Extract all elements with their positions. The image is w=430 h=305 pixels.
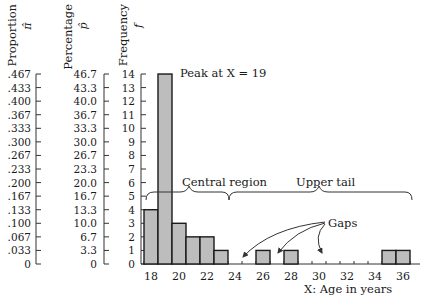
- bar-age-36: [396, 250, 410, 264]
- y-axis-proportion: .467.433.400.367.333.300.267.233.200.167…: [5, 3, 41, 270]
- y-tick-label: 10: [122, 122, 135, 134]
- y-tick-label: 43.3: [74, 82, 97, 94]
- y-tick-label: .433: [8, 82, 31, 94]
- bar-age-26: [256, 250, 270, 264]
- y-tick-label: 3: [128, 217, 135, 229]
- x-tick-label: 20: [172, 270, 186, 283]
- y-axis-frequency: 14131211109876543210Frequencyf: [116, 4, 146, 271]
- y-tick-label: 26.7: [74, 149, 97, 161]
- y-tick-label: 9: [128, 136, 135, 148]
- y-tick-label: .200: [8, 177, 31, 189]
- x-axis: 18202224262830323436X: Age in years: [141, 261, 420, 296]
- y-tick-label: 30.0: [74, 136, 97, 148]
- y-axis-title: Frequency: [116, 4, 130, 67]
- y-tick-label: .067: [8, 231, 31, 243]
- y-tick-label: 40.0: [74, 95, 97, 107]
- y-tick-label: 1: [128, 244, 135, 256]
- x-tick-label: 28: [284, 270, 298, 283]
- y-tick-label: 0: [24, 258, 31, 270]
- gap-arrow-30: [318, 224, 325, 253]
- bar-age-35: [382, 250, 396, 264]
- y-tick-label: 0: [128, 258, 135, 270]
- y-tick-label: 46.7: [74, 68, 97, 80]
- bar-age-18: [144, 210, 158, 264]
- y-tick-label: .133: [8, 204, 31, 216]
- bar-age-19: [158, 74, 172, 264]
- x-axis-title: X: Age in years: [304, 282, 392, 296]
- x-tick-label: 22: [200, 270, 214, 283]
- gaps-label: Gaps: [328, 216, 357, 230]
- y-axis-symbol: p̂: [77, 22, 90, 29]
- y-tick-label: 33.3: [74, 122, 97, 134]
- y-tick-label: 13: [122, 82, 135, 94]
- x-tick-label: 36: [396, 270, 410, 283]
- y-tick-label: 13.3: [74, 204, 97, 216]
- y-tick-label: .267: [8, 149, 31, 161]
- y-tick-label: .300: [8, 136, 31, 148]
- y-tick-label: .033: [8, 244, 31, 256]
- y-tick-label: 16.7: [74, 190, 97, 202]
- y-tick-label: .367: [8, 109, 31, 121]
- y-tick-label: .467: [8, 68, 31, 80]
- y-tick-label: 10.0: [74, 217, 97, 229]
- y-axis-title: Proportion: [5, 3, 19, 66]
- y-tick-label: 7: [128, 163, 135, 175]
- y-tick-label: .100: [8, 217, 31, 229]
- y-tick-label: 36.7: [74, 109, 97, 121]
- y-tick-label: 8: [128, 149, 135, 161]
- y-tick-label: 4: [128, 204, 135, 216]
- y-tick-label: .400: [8, 95, 31, 107]
- y-tick-label: 23.3: [74, 163, 97, 175]
- x-tick-label: 26: [256, 270, 270, 283]
- bar-age-21: [186, 237, 200, 264]
- y-tick-label: 20.0: [74, 177, 97, 189]
- y-tick-label: 14: [122, 68, 136, 80]
- bar-age-20: [172, 223, 186, 264]
- y-axis-percentage: 46.743.340.036.733.330.026.723.320.016.7…: [61, 4, 109, 270]
- y-tick-label: 3.3: [80, 244, 97, 256]
- bar-age-23: [214, 250, 228, 264]
- y-tick-label: 5: [128, 190, 135, 202]
- histogram-chart: .467.433.400.367.333.300.267.233.200.167…: [0, 0, 430, 305]
- y-axis-symbol: f: [132, 22, 145, 29]
- central-region-label: Central region: [182, 175, 268, 189]
- y-tick-label: 2: [128, 231, 135, 243]
- y-axis-symbol: π̂: [21, 22, 34, 31]
- x-tick-label: 18: [144, 270, 158, 283]
- bar-age-28: [284, 250, 298, 264]
- peak-annotation: Peak at X = 19: [180, 66, 266, 80]
- bar-age-22: [200, 237, 214, 264]
- y-axis-title: Percentage: [61, 4, 75, 70]
- upper-tail-label: Upper tail: [296, 175, 356, 189]
- y-tick-label: 12: [122, 95, 135, 107]
- y-tick-label: 0: [90, 258, 97, 270]
- y-tick-label: 11: [122, 109, 135, 121]
- y-tick-label: .167: [8, 190, 31, 202]
- y-tick-label: 6: [128, 177, 135, 189]
- y-tick-label: .233: [8, 163, 31, 175]
- y-tick-label: .333: [8, 122, 31, 134]
- y-tick-label: 6.7: [80, 231, 97, 243]
- x-tick-label: 24: [228, 270, 242, 283]
